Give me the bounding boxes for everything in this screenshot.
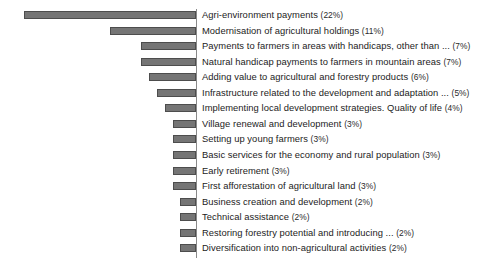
bar	[180, 244, 196, 252]
bar	[173, 120, 196, 128]
bar-label-text: Infrastructure related to the developmen…	[202, 87, 449, 98]
bar-label: Natural handicap payments to farmers in …	[202, 54, 461, 71]
bar-label-text: Early retirement	[202, 165, 269, 176]
bar-label-text: Basic services for the economy and rural…	[202, 149, 420, 160]
bar-label: Setting up young farmers (3%)	[202, 131, 329, 148]
bar-label-text: Village renewal and development	[202, 118, 342, 129]
bar-value-percent: (3%)	[344, 119, 362, 129]
bar-value-percent: (11%)	[362, 26, 384, 36]
bar-value-percent: (2%)	[396, 228, 414, 238]
bar-label-text: Agri-environment payments	[202, 9, 318, 20]
bar-label: Implementing local development strategie…	[202, 100, 463, 117]
bar-value-percent: (2%)	[355, 197, 373, 207]
bar-value-percent: (6%)	[411, 72, 429, 82]
bar-label: Technical assistance (2%)	[202, 209, 310, 226]
bar-label: Infrastructure related to the developmen…	[202, 85, 469, 102]
bar-value-percent: (7%)	[453, 41, 471, 51]
bar-row: Diversification into non-agricultural ac…	[0, 242, 487, 258]
bar	[157, 89, 196, 97]
bar	[165, 104, 196, 112]
bar-label-text: Natural handicap payments to farmers in …	[202, 56, 441, 67]
bar-label: Basic services for the economy and rural…	[202, 147, 440, 164]
bar-label: First afforestation of agricultural land…	[202, 178, 376, 195]
bar-value-percent: (2%)	[389, 243, 407, 253]
bar	[173, 151, 196, 159]
bar-value-percent: (3%)	[358, 181, 376, 191]
bar	[110, 27, 196, 35]
bar-label-text: Implementing local development strategie…	[202, 102, 442, 113]
bar-label: Diversification into non-agricultural ac…	[202, 240, 407, 257]
bar-label: Modernisation of agricultural holdings (…	[202, 23, 384, 40]
bar	[180, 213, 196, 221]
bar-value-percent: (5%)	[452, 88, 470, 98]
bar-label: Business creation and development (2%)	[202, 194, 373, 211]
bar-label-text: Setting up young farmers	[202, 133, 308, 144]
bar-label-text: Restoring forestry potential and introdu…	[202, 227, 394, 238]
bar-label: Village renewal and development (3%)	[202, 116, 362, 133]
bar-label: Agri-environment payments (22%)	[202, 7, 343, 24]
bar-value-percent: (4%)	[445, 103, 463, 113]
bar-label: Payments to farmers in areas with handic…	[202, 38, 470, 55]
bar-label: Adding value to agricultural and forestr…	[202, 69, 429, 86]
bar-label-text: Business creation and development	[202, 196, 352, 207]
bar	[173, 182, 196, 190]
bar	[141, 42, 196, 50]
horizontal-bar-chart: Agri-environment payments (22%)Modernisa…	[0, 0, 487, 268]
bar	[24, 11, 196, 19]
bar-value-percent: (22%)	[321, 10, 344, 20]
bar	[173, 135, 196, 143]
bar-label-text: Technical assistance	[202, 211, 289, 222]
bar-label-text: Diversification into non-agricultural ac…	[202, 242, 386, 253]
bar-value-percent: (3%)	[272, 166, 290, 176]
bar	[141, 58, 196, 66]
bar-label: Early retirement (3%)	[202, 163, 290, 180]
bar-label: Restoring forestry potential and introdu…	[202, 225, 414, 242]
bar-label-text: First afforestation of agricultural land	[202, 180, 355, 191]
bar-value-percent: (2%)	[292, 212, 310, 222]
bar-label-text: Payments to farmers in areas with handic…	[202, 40, 450, 51]
bar-label-text: Modernisation of agricultural holdings	[202, 25, 359, 36]
bar-value-percent: (3%)	[422, 150, 440, 160]
bar-value-percent: (3%)	[311, 134, 329, 144]
bar	[149, 73, 196, 81]
bar	[180, 229, 196, 237]
bar	[180, 198, 196, 206]
bar	[173, 167, 196, 175]
bar-label-text: Adding value to agricultural and forestr…	[202, 71, 408, 82]
bar-value-percent: (7%)	[443, 57, 461, 67]
bar-rows-container: Agri-environment payments (22%)Modernisa…	[0, 0, 487, 268]
